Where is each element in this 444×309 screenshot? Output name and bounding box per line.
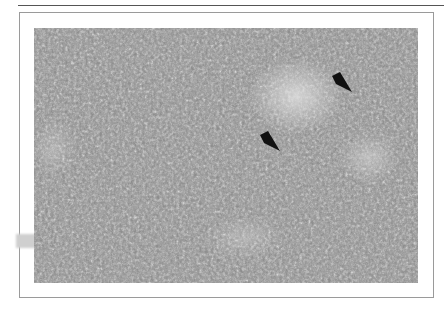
tissue-micrograph [34, 28, 418, 283]
arrow-annotation-icon [258, 129, 282, 153]
arrow-annotation-icon [330, 70, 354, 94]
scan-artifact [16, 234, 36, 248]
top-rule [18, 5, 444, 6]
